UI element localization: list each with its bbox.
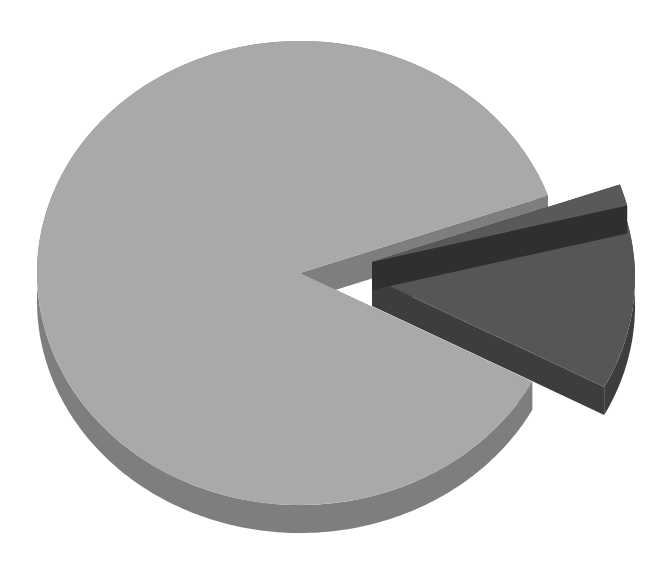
pie-chart (0, 0, 672, 567)
pie-top-faces (37, 41, 635, 533)
